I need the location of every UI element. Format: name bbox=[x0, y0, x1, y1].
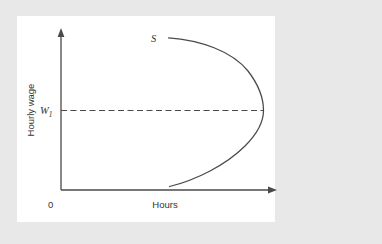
supply-curve-path bbox=[169, 38, 264, 187]
supply-curve-chart: S W1 Hourly wage Hours 0 bbox=[0, 0, 382, 244]
y-axis-arrow-icon bbox=[58, 28, 65, 37]
x-axis-arrow-icon bbox=[268, 187, 277, 194]
y-axis-title: Hourly wage bbox=[25, 84, 36, 137]
supply-curve-label: S bbox=[151, 33, 157, 44]
figure-root: S W1 Hourly wage Hours 0 bbox=[0, 0, 382, 244]
origin-label: 0 bbox=[48, 199, 53, 210]
wage-level-label: W1 bbox=[40, 105, 53, 119]
x-axis-title: Hours bbox=[152, 199, 178, 210]
wage-level-label-subscript: 1 bbox=[49, 110, 53, 119]
